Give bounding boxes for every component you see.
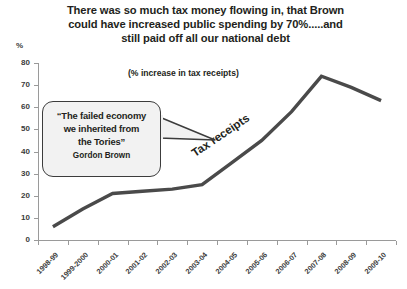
- y-tick-mark: [34, 152, 38, 153]
- quote-line-1: “The failed economy: [43, 109, 160, 122]
- y-axis-line: [38, 63, 39, 241]
- x-tick-mark: [396, 241, 397, 245]
- x-tick-mark: [98, 241, 99, 245]
- y-tick-label: 20: [8, 192, 30, 200]
- chart-title-line-2: could have increased public spending by …: [14, 17, 397, 31]
- chart-title: There was so much tax money flowing in, …: [14, 3, 397, 46]
- x-tick-mark: [247, 241, 248, 245]
- y-axis-unit-label: %: [16, 41, 23, 50]
- y-tick-mark: [34, 174, 38, 175]
- series-inline-label: Tax receipts: [189, 111, 252, 159]
- y-tick-mark: [34, 129, 38, 130]
- y-tick-label: 40: [8, 148, 30, 156]
- y-tick-label: 0: [8, 236, 30, 244]
- y-tick-label: 30: [8, 170, 30, 178]
- y-tick-mark: [34, 63, 38, 64]
- x-tick-mark: [366, 241, 367, 245]
- quote-line-2: we inherited from: [43, 122, 160, 135]
- chart-title-line-3: still paid off all our national debt: [14, 31, 397, 45]
- chart-title-line-1: There was so much tax money flowing in, …: [14, 3, 397, 17]
- quote-callout: “The failed economy we inherited from th…: [42, 101, 161, 177]
- x-tick-mark: [336, 241, 337, 245]
- subtitle-annotation: (% increase in tax receipts): [128, 68, 239, 78]
- y-tick-label: 70: [8, 81, 30, 89]
- y-tick-mark: [34, 218, 38, 219]
- quote-attribution: Gordon Brown: [43, 151, 160, 160]
- x-tick-mark: [128, 241, 129, 245]
- y-tick-label: 60: [8, 103, 30, 111]
- y-tick-label: 80: [8, 59, 30, 67]
- x-tick-mark: [187, 241, 188, 245]
- x-tick-mark: [307, 241, 308, 245]
- y-tick-mark: [34, 107, 38, 108]
- x-tick-mark: [277, 241, 278, 245]
- quote-text: “The failed economy we inherited from th…: [43, 109, 160, 149]
- quote-line-3: the Tories”: [43, 135, 160, 148]
- y-tick-mark: [34, 196, 38, 197]
- x-tick-mark: [157, 241, 158, 245]
- x-tick-mark: [38, 241, 39, 245]
- x-tick-mark: [217, 241, 218, 245]
- y-tick-mark: [34, 85, 38, 86]
- chart-container: There was so much tax money flowing in, …: [0, 0, 407, 289]
- x-tick-mark: [68, 241, 69, 245]
- y-tick-label: 50: [8, 125, 30, 133]
- y-tick-label: 10: [8, 214, 30, 222]
